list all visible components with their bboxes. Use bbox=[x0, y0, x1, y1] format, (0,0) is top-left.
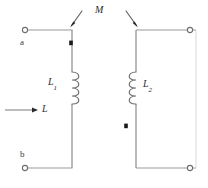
terminal-a-label: a bbox=[20, 38, 24, 47]
circuit-diagram-figure: a b L1 L2 M L bbox=[0, 0, 208, 188]
polarity-dot-markers bbox=[69, 41, 128, 129]
mutual-arrow-right-head-icon bbox=[133, 22, 138, 28]
mutual-inductance-label: M bbox=[95, 5, 103, 15]
terminal-b-label: b bbox=[20, 150, 25, 159]
inductor-l2-symbol: L bbox=[143, 78, 149, 89]
inductor-l2-label: L2 bbox=[143, 79, 152, 92]
polarity-dot-primary-icon bbox=[69, 41, 73, 46]
current-direction-arrow bbox=[5, 107, 38, 112]
terminal-a-node bbox=[22, 27, 27, 32]
terminal-d-node bbox=[187, 165, 192, 170]
polarity-dot-secondary-icon bbox=[124, 124, 128, 129]
current-arrow-head-icon bbox=[32, 107, 38, 112]
inductor-l2-subscript: 2 bbox=[149, 86, 153, 94]
secondary-circuit bbox=[129, 30, 196, 168]
terminal-c-node bbox=[187, 27, 192, 32]
primary-circuit bbox=[28, 30, 79, 168]
inductor-coil-primary bbox=[72, 72, 79, 104]
inductor-l1-label: L1 bbox=[48, 77, 57, 90]
mutual-inductance-arrows bbox=[70, 11, 138, 28]
inductor-l1-symbol: L bbox=[48, 76, 54, 87]
circuit-schematic-svg bbox=[0, 0, 208, 188]
terminal-b-node bbox=[22, 165, 27, 170]
current-label: L bbox=[42, 104, 48, 114]
inductor-l1-subscript: 1 bbox=[54, 84, 58, 92]
terminal-nodes bbox=[22, 27, 192, 170]
mutual-arrow-left-head-icon bbox=[70, 22, 75, 28]
inductor-coil-secondary bbox=[129, 72, 136, 104]
